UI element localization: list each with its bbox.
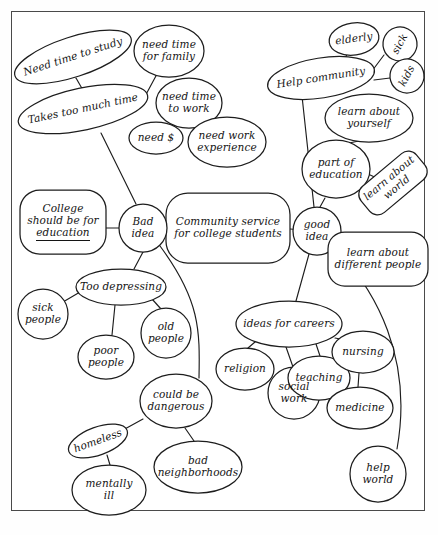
- node-label-learn_yourself: learn about yourself: [325, 106, 413, 130]
- node-mentally_ill[interactable]: mentally ill: [72, 465, 146, 515]
- node-label-ideas_careers: ideas for careers: [236, 318, 342, 330]
- node-label-bad_neighborhoods: bad neighborhoods: [154, 455, 242, 479]
- node-could_dangerous[interactable]: could be dangerous: [140, 374, 212, 428]
- node-need_experience[interactable]: need work experience: [188, 117, 266, 167]
- node-label-could_dangerous: could be dangerous: [140, 389, 212, 413]
- node-label-sick_people: sick people: [18, 302, 68, 326]
- node-bad_idea[interactable]: Bad idea: [119, 204, 167, 252]
- node-label-part_education: part of education: [302, 157, 370, 181]
- node-label-need_money: need $: [129, 132, 183, 144]
- node-label-learn_different: learn about different people: [328, 247, 428, 271]
- node-label-teaching: teaching: [288, 372, 350, 384]
- node-sick_people[interactable]: sick people: [18, 289, 68, 339]
- node-label-need_study: Need time to study: [13, 33, 133, 82]
- node-label-poor_people: poor people: [78, 345, 134, 369]
- node-medicine[interactable]: medicine: [327, 387, 393, 429]
- node-label-elderly: elderly: [328, 30, 379, 49]
- node-bad_neighborhoods[interactable]: bad neighborhoods: [154, 441, 242, 493]
- node-label-underlined: education: [36, 227, 89, 241]
- node-kids[interactable]: kids: [384, 53, 430, 99]
- node-religion[interactable]: religion: [216, 348, 274, 390]
- node-label-center: Community service for college students: [166, 216, 290, 240]
- node-label-need_family: need time for family: [134, 39, 204, 63]
- node-label-kids: kids: [394, 58, 420, 94]
- node-label-medicine: medicine: [327, 402, 393, 414]
- node-elderly[interactable]: elderly: [327, 20, 381, 59]
- node-label-homeless: homeless: [67, 425, 129, 457]
- node-label-help_community: Help community: [267, 64, 376, 93]
- node-need_money[interactable]: need $: [129, 122, 183, 154]
- node-help_world[interactable]: help world: [350, 446, 406, 502]
- node-too_depressing[interactable]: Too depressing: [76, 269, 166, 305]
- node-college_education[interactable]: Collegeshould be foreducation: [20, 190, 106, 254]
- node-label-help_world: help world: [350, 462, 406, 486]
- node-center[interactable]: Community service for college students: [166, 193, 290, 263]
- node-old_people[interactable]: old people: [141, 308, 191, 358]
- node-label-college_education: Collegeshould be foreducation: [20, 203, 106, 240]
- node-label-bad_idea: Bad idea: [119, 216, 167, 240]
- concept-map-sheet: Community service for college studentsBa…: [0, 0, 438, 535]
- node-label-nursing: nursing: [332, 346, 394, 358]
- node-ideas_careers[interactable]: ideas for careers: [236, 301, 342, 347]
- node-label-religion: religion: [216, 363, 274, 375]
- node-label-need_experience: need work experience: [188, 130, 266, 154]
- node-homeless[interactable]: homeless: [64, 417, 132, 465]
- node-need_family[interactable]: need time for family: [134, 25, 204, 77]
- node-nursing[interactable]: nursing: [332, 331, 394, 373]
- node-poor_people[interactable]: poor people: [78, 335, 134, 379]
- node-label-layer: Community service for college studentsBa…: [0, 0, 438, 535]
- node-label-too_depressing: Too depressing: [76, 281, 166, 293]
- node-label-need_work: need time to work: [156, 91, 222, 115]
- node-learn_yourself[interactable]: learn about yourself: [325, 94, 413, 142]
- node-label-mentally_ill: mentally ill: [72, 478, 146, 502]
- node-learn_different[interactable]: learn about different people: [328, 232, 428, 286]
- node-label-old_people: old people: [141, 321, 191, 345]
